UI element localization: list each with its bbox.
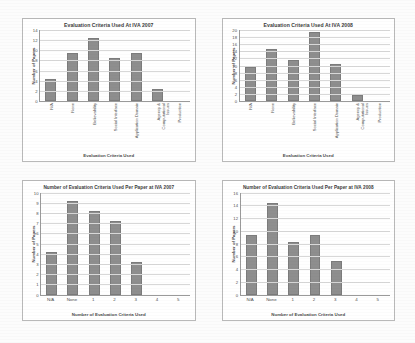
bar — [331, 261, 342, 295]
plot-area — [239, 30, 390, 102]
x-tick-label: 2 — [303, 297, 324, 302]
x-tick-label: Believability — [93, 103, 98, 125]
gridline — [241, 231, 390, 232]
bar — [330, 64, 341, 102]
x-tick-label: 1 — [83, 297, 104, 302]
plot-area-wrapper: Number of Papers 0246810121416 N/ANone12… — [223, 181, 395, 321]
chart-cell-eval-criteria-2007: Evaluation Criteria Used At IVA 2007 Num… — [0, 0, 208, 172]
x-tick-label: 3 — [125, 297, 146, 302]
y-tick-label: 7 — [36, 221, 38, 226]
gridline — [240, 37, 390, 38]
x-tick-label: None — [261, 297, 282, 302]
y-tick-label: 10 — [34, 190, 39, 195]
gridline — [241, 218, 390, 219]
x-tick-label: 4 — [346, 297, 367, 302]
y-tick-label: 2 — [35, 88, 37, 93]
y-tick-label: 16 — [232, 42, 237, 47]
x-tick-label: 1 — [282, 297, 303, 302]
plot-area-wrapper: Number of Papers 02468101214161820 N/ANo… — [223, 19, 395, 161]
y-tick-label: 0 — [35, 99, 37, 104]
y-tick-label: 4 — [236, 267, 238, 272]
x-tick-label: None — [71, 103, 76, 113]
x-tick-label: Production — [178, 103, 183, 123]
x-tick-label: Application Domain — [335, 103, 340, 138]
figure-page: Evaluation Criteria Used At IVA 2007 Num… — [0, 0, 415, 343]
y-tick-label: 2 — [235, 91, 237, 96]
gridline — [240, 44, 390, 45]
gridline — [41, 233, 190, 234]
x-axis-tick-labels: N/ANone12345 — [40, 297, 189, 302]
gridline — [241, 244, 390, 245]
gridline — [41, 203, 190, 204]
gridline — [241, 193, 390, 194]
gridline — [40, 50, 190, 51]
y-tick-label: 1 — [36, 282, 38, 287]
gridline — [40, 60, 190, 61]
y-tick-label: 0 — [36, 292, 38, 297]
gridline — [40, 40, 190, 41]
y-tick-label: 14 — [232, 49, 237, 54]
x-tick-label: Social Interface — [114, 103, 119, 131]
gridline — [240, 73, 390, 74]
y-tick-label: 0 — [236, 292, 238, 297]
y-tick-label: 8 — [36, 210, 38, 215]
gridline — [241, 282, 390, 283]
y-tick-label: 8 — [235, 70, 237, 75]
bar — [288, 242, 299, 295]
y-tick-label: 14 — [233, 203, 238, 208]
chart-cell-criteria-per-paper-2007: Number of Evaluation Criteria Used Per P… — [0, 172, 208, 343]
y-tick-label: 20 — [232, 28, 237, 33]
gridline — [240, 30, 390, 31]
chart-panel: Number of Evaluation Criteria Used Per P… — [22, 180, 196, 322]
y-tick-label: 10 — [232, 63, 237, 68]
chart-panel: Evaluation Criteria Used At IVA 2008 Num… — [222, 18, 396, 162]
y-tick-label: 6 — [36, 231, 38, 236]
x-tick-slot: Believability — [281, 102, 302, 148]
x-tick-slot: Agency & Computational Issues — [346, 102, 367, 148]
x-tick-label: 5 — [367, 297, 388, 302]
x-tick-slot: Application Domain — [125, 102, 146, 148]
bar — [131, 262, 142, 295]
plot-area — [240, 193, 390, 296]
plot-area — [40, 193, 190, 296]
x-tick-slot: Social Interface — [103, 102, 124, 148]
y-tick-label: 4 — [235, 84, 237, 89]
plot-area — [39, 30, 190, 102]
gridline — [240, 58, 390, 59]
y-tick-label: 18 — [232, 35, 237, 40]
x-tick-label: Believability — [292, 103, 297, 125]
y-tick-label: 9 — [36, 200, 38, 205]
y-tick-label: 3 — [36, 261, 38, 266]
gridline — [241, 256, 390, 257]
x-tick-label: 3 — [325, 297, 346, 302]
gridline — [241, 205, 390, 206]
gridline — [40, 71, 190, 72]
gridline — [41, 274, 190, 275]
x-tick-slot: Social Interface — [303, 102, 324, 148]
x-tick-slot: Believability — [82, 102, 103, 148]
chart-cell-eval-criteria-2008: Evaluation Criteria Used At IVA 2008 Num… — [208, 0, 415, 172]
x-tick-label: None — [271, 103, 276, 113]
plot-area-wrapper: Number of Papers 02468101214 N/ANoneBeli… — [23, 19, 195, 161]
gridline — [41, 264, 190, 265]
x-tick-slot: N/A — [39, 102, 60, 148]
chart-panel: Evaluation Criteria Used At IVA 2007 Num… — [22, 18, 196, 162]
x-tick-label: None — [61, 297, 82, 302]
x-axis-label: Evaluation Criteria Used — [223, 153, 395, 158]
x-axis-label: Number of Evaluation Criteria Used — [23, 312, 195, 317]
y-tick-label: 12 — [232, 56, 237, 61]
y-tick-label: 5 — [36, 241, 38, 246]
y-axis-ticks: 02468101214 — [23, 30, 38, 101]
y-tick-label: 8 — [35, 58, 37, 63]
gridline — [41, 244, 190, 245]
bar — [46, 252, 57, 295]
y-tick-label: 6 — [236, 254, 238, 259]
y-tick-label: 8 — [236, 241, 238, 246]
y-tick-label: 6 — [35, 68, 37, 73]
x-tick-slot: Production — [367, 102, 388, 148]
bar — [352, 95, 363, 101]
y-tick-label: 6 — [235, 77, 237, 82]
gridline — [240, 87, 390, 88]
x-tick-label: 2 — [104, 297, 125, 302]
gridline — [240, 51, 390, 52]
